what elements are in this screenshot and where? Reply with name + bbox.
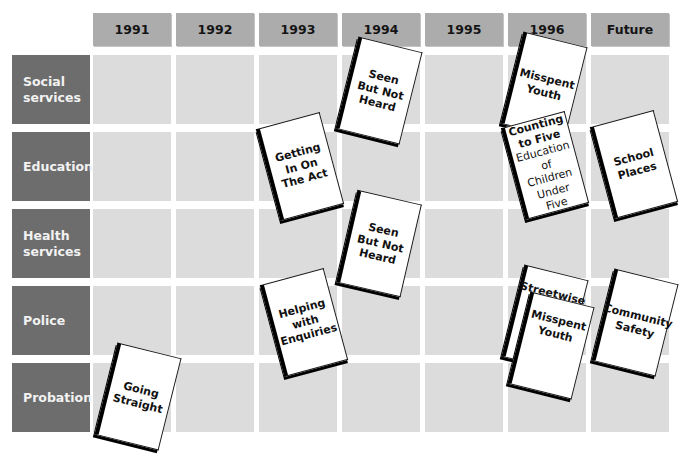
document-title: Helping with Enquiries [272,295,339,349]
row-label-health-services: Health services [12,209,90,278]
grid-cell [425,209,503,278]
grid-cell [93,55,171,124]
document-title: School Places [605,144,665,184]
grid-cell [425,363,503,432]
grid-cell [508,209,586,278]
grid-cell [176,55,254,124]
grid-cell [425,132,503,201]
grid-cell [176,132,254,201]
column-header-future: Future [591,13,669,46]
grid-cell [93,132,171,201]
row-label-line: Social [23,74,81,90]
grid-cell [93,209,171,278]
column-header-1993: 1993 [259,13,337,46]
document-title: Misspent Youth [526,308,587,348]
document-helping-with-enquiries: Helping with Enquiries [260,268,348,377]
grid-cell [259,363,337,432]
document-title: Getting In On The Act [270,139,334,192]
grid-cell [342,363,420,432]
document-title: Going Straight [110,377,170,417]
grid-cell [176,286,254,355]
grid-cell [259,209,337,278]
document-title: Misspent Youth [515,66,576,106]
grid-cell [591,55,669,124]
grid-cell [93,286,171,355]
grid-cell [425,286,503,355]
grid-cell [342,286,420,355]
document-title: Community Safety [599,301,674,344]
row-label-education: Education [12,132,90,201]
document-school-places: School Places [590,110,678,219]
document-counting-to-five: Counting to Five Education of Children U… [501,111,589,220]
document-seen-but-not-heard-health: Seen But Not Heard [336,190,422,297]
column-header-1992: 1992 [176,13,254,46]
grid-cell [591,209,669,278]
row-label-probation: Probation [12,363,90,432]
document-getting-in-on-the-act: Getting In On The Act [256,112,344,221]
row-label-police: Police [12,286,90,355]
document-going-straight: Going Straight [94,342,181,450]
grid-cell [176,209,254,278]
grid-cell [176,363,254,432]
document-subtitle: Education of Children Under Five [515,138,586,217]
grid-cell [591,363,669,432]
grid-cell [259,55,337,124]
grid-cell [342,132,420,201]
row-label-line: Police [23,313,65,329]
row-label-line: services [23,90,81,106]
document-seen-but-not-heard-social: Seen But Not Heard [335,36,422,144]
document-title: Seen But Not Heard [349,65,412,118]
document-community-safety: Community Safety [591,268,678,376]
document-title: Seen But Not Heard [349,218,412,270]
column-header-1995: 1995 [425,13,503,46]
column-header-1991: 1991 [93,13,171,46]
row-label-line: Education [23,159,93,175]
row-label-social-services: Social services [12,55,90,124]
row-label-line: services [23,244,81,260]
grid-cell [425,55,503,124]
row-label-line: Health [23,228,81,244]
row-label-line: Probation [23,390,92,406]
